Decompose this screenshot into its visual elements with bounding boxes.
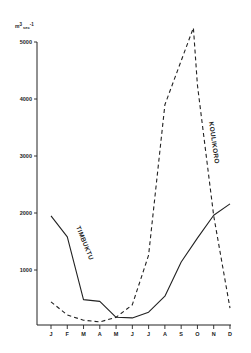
series-lines [51, 28, 230, 322]
series-line-timbuktu [51, 204, 230, 318]
x-tick-label: J [131, 331, 134, 337]
y-tick-label: 5000 [20, 39, 32, 45]
unit-text: m3sec-1 [15, 22, 34, 31]
x-tick-label: M [81, 331, 86, 337]
y-tick-label: 1000 [20, 267, 32, 273]
x-tick-label: O [195, 331, 200, 337]
x-tick-label: N [212, 331, 216, 337]
x-tick-label: D [228, 331, 232, 337]
y-tick-label: 4000 [20, 96, 32, 102]
x-tick-label: A [163, 331, 167, 337]
x-tick-label: S [179, 331, 183, 337]
x-tick-label: J [49, 331, 52, 337]
x-tick-label: J [147, 331, 150, 337]
series-labels: TIMBUKTUKOULIKORO [75, 121, 221, 261]
x-axis-ticks: JFMAMJJASOND [49, 325, 232, 337]
series-label-koulikoro: KOULIKORO [208, 121, 221, 164]
x-tick-label: A [98, 331, 102, 337]
axes [37, 42, 231, 325]
y-tick-label: 3000 [20, 153, 32, 159]
x-tick-label: M [114, 331, 119, 337]
series-label-timbuktu: TIMBUKTU [75, 225, 95, 261]
y-axis-ticks: 10002000300040005000 [20, 39, 37, 273]
x-tick-label: F [66, 331, 70, 337]
y-axis-unit-label: m3sec-1 [15, 22, 34, 31]
river-discharge-chart: 10002000300040005000 JFMAMJJASOND m3sec-… [0, 0, 251, 353]
y-tick-label: 2000 [20, 210, 32, 216]
